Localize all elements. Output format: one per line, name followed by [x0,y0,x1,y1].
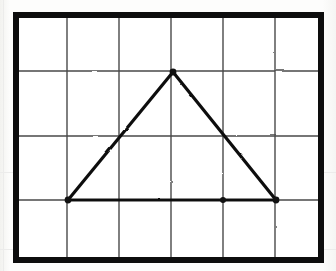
right-foot-point [273,197,280,204]
plot-canvas [0,0,336,271]
scanned-page: Hand-drawn triangular (tent) piecewise-l… [0,0,336,271]
triangular-peak-graph [0,0,336,271]
baseline-midpoint [220,197,226,203]
left-foot-point [65,197,72,204]
apex-point [170,69,177,76]
